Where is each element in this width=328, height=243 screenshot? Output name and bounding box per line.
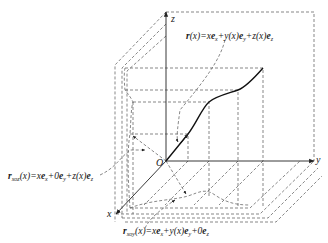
z-axis-label: z	[171, 14, 175, 24]
x-axis-label: x	[107, 209, 111, 219]
equation-r-xoy: rxoy(x)=xex+y(x)ey+0ez	[123, 227, 209, 237]
diagram-canvas	[0, 0, 328, 243]
equation-r-xoz: rxoz(x)=xex+0ey+z(x)ez	[8, 172, 93, 182]
x-axis	[116, 161, 166, 214]
origin-label: O	[156, 158, 163, 168]
y-axis-label: y	[316, 155, 320, 165]
equation-r: r(x)=xex+y(x)ey+z(x)ez	[186, 32, 273, 42]
coordinate-diagram: z y x O r(x)=xex+y(x)ey+z(x)ez rxoz(x)=x…	[0, 0, 328, 243]
space-curve	[166, 68, 263, 161]
